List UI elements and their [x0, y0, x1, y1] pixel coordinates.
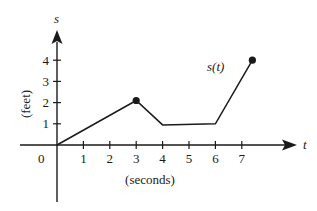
x-axis: 1234567 t 0 (seconds) [20, 137, 307, 187]
x-axis-name: t [303, 137, 307, 152]
x-tick-label: 6 [212, 151, 219, 166]
x-axis-label: (seconds) [125, 172, 175, 187]
origin-label: 0 [38, 151, 45, 166]
x-tick-label: 3 [133, 151, 140, 166]
x-tick-label: 5 [186, 151, 193, 166]
point-marker [249, 57, 256, 64]
series-s-of-t: s(t) [57, 57, 256, 145]
x-tick-label: 7 [239, 151, 246, 166]
point-marker [133, 97, 140, 104]
y-tick-label: 3 [43, 74, 50, 89]
x-tick-label: 2 [107, 151, 114, 166]
position-time-graph: 1234567 t 0 (seconds) 1234 s (feet) s(t) [0, 0, 317, 211]
series-label: s(t) [207, 59, 224, 74]
y-tick-label: 2 [43, 95, 50, 110]
y-tick-label: 1 [43, 116, 50, 131]
y-axis-name: s [54, 11, 59, 26]
series-markers [133, 57, 256, 104]
y-tick-label: 4 [43, 53, 50, 68]
x-tick-label: 1 [80, 151, 87, 166]
y-axis: 1234 s (feet) [18, 11, 63, 202]
y-axis-arrow-icon [52, 30, 63, 44]
x-tick-label: 4 [159, 151, 166, 166]
y-axis-label: (feet) [18, 90, 33, 118]
y-axis-ticks: 1234 [43, 53, 62, 132]
